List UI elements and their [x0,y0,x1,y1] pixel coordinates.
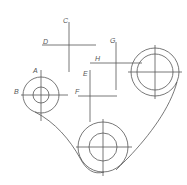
label-b: B [14,88,19,95]
label-e: E [83,70,88,77]
bottom-pulley [76,119,132,176]
engineering-diagram: C D G H E F A B [0,0,187,185]
label-c: C [63,17,69,24]
cross-gh: G H [90,37,142,90]
label-g: G [110,37,116,44]
tangent-curve-right-bottom [116,82,177,170]
left-pulley: A B [14,67,68,121]
cross-ef: E F [75,70,117,122]
cross-cd: C D [42,17,96,72]
label-f: F [75,88,80,95]
label-h: H [95,55,101,62]
label-d: D [43,38,48,45]
tangent-curve-left-bottom [35,112,104,173]
label-a: A [32,67,38,74]
